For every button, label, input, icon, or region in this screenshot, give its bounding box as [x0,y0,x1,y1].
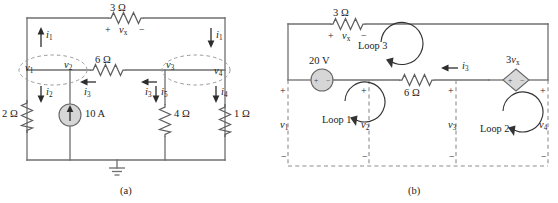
current-label-i3-right-sub: 3 [148,91,152,99]
label-resistor-4ohm-a: 4 Ω [174,109,190,120]
node-label-v1-a-name: v [25,62,30,73]
label-vx-b-sub: x [347,35,351,43]
label-loop-1: Loop 1 [322,115,351,125]
mesh-v4-sub: 4 [544,124,548,132]
arrow-b-i3-head [441,65,449,72]
node-label-v4-a: v4 [214,66,222,78]
node-label-v1-a: v1 [25,63,33,75]
mesh-v1-plus: + [280,86,286,96]
mesh-v3-sub: 3 [453,124,457,132]
label-resistor-3ohm-a: 3 Ω [110,3,126,14]
mesh-v3-minus: − [449,152,455,162]
mesh-v4-plus: + [540,86,546,96]
mesh-v3-name: v [448,119,453,130]
label-vx-plus-a: + [105,25,111,35]
resistor-6ohm-mid-b [399,75,435,86]
label-loop-2: Loop 2 [480,124,509,134]
resistor-3ohm-top-b [330,19,366,30]
mesh-v2-label: v2 [361,120,369,132]
mesh-v4-label: v4 [539,120,547,132]
mesh-v2-plus: + [361,86,367,96]
arrow-i3-right-head [141,79,149,86]
label-dependent-source-3vx: 3vx [506,55,520,67]
label-vx-b: vx [342,31,350,43]
current-label-i5-sub: 5 [164,91,168,99]
label-current-source-10a: 10 A [85,109,105,120]
current-label-i3-left-sub: 3 [87,91,91,99]
dependent-source-minus-sign: − [520,76,524,85]
label-vx-minus-a: − [139,25,145,35]
node-label-v2-a: v2 [64,60,72,72]
label-resistor-6ohm-a: 6 Ω [95,55,111,66]
resistor-3ohm-top-a [108,13,144,24]
current-label-i3-left: i3 [84,87,91,99]
current-label-b-i3: i3 [462,61,469,73]
arrow-i1-right-head [208,41,215,49]
voltage-source-minus-sign: − [326,76,330,85]
current-label-i4-sub: 4 [224,91,228,99]
label-vx-b-name: v [342,30,347,41]
node-label-v4-a-sub: 4 [219,70,223,78]
circuit-canvas [0,0,558,203]
arrow-i2-head [38,96,45,104]
node-label-v2-a-name: v [64,59,69,70]
figure-root: 3 Ω + vx − 6 Ω v1 v2 v3 v4 i1 i1 i2 i3 i… [0,0,558,203]
current-label-i1-left: i1 [46,30,53,42]
node-label-v3-a: v3 [166,60,174,72]
current-label-i2-sub: 2 [49,91,53,99]
caption-panel-a: (a) [120,186,132,197]
label-vx-a-name: v [119,24,124,35]
resistor-6ohm-mid-a [90,65,126,76]
mesh-v3-label: v3 [448,120,456,132]
mesh-v1-minus: − [281,152,287,162]
label-vx-plus-b: + [328,31,334,41]
label-vx-a: vx [119,25,127,37]
label-resistor-2ohm-a: 2 Ω [2,109,18,120]
mesh-v1-sub: 1 [285,124,289,132]
current-label-i1-left-sub: 1 [49,34,53,42]
label-resistor-1ohm-a: 1 Ω [234,109,250,120]
node-label-v4-a-name: v [214,65,219,76]
current-label-i1-right-sub: 1 [219,34,223,42]
current-label-i4: i4 [221,87,228,99]
dependent-source-3vx-symbol [503,69,529,91]
mesh-v4-name: v [539,119,544,130]
arrow-i3-left-head [80,79,88,86]
label-resistor-6ohm-b: 6 Ω [404,88,420,99]
resistor-4ohm-a [160,104,171,137]
node-label-v3-a-name: v [166,59,171,70]
node-label-v2-a-sub: 2 [69,64,73,72]
label-vx-a-sub: x [124,29,128,37]
label-voltage-source-20v: 20 V [309,56,330,67]
current-label-i5: i5 [161,87,168,99]
label-resistor-3ohm-b: 3 Ω [333,8,349,19]
node-label-v1-a-sub: 1 [30,67,34,75]
loop3-arrow-head [386,58,394,69]
mesh-v2-minus: − [362,152,368,162]
mesh-v2-name: v [361,119,366,130]
arrow-i1-left-head [38,27,45,35]
current-label-i3-right: i3 [145,87,152,99]
current-label-b-i3-sub: 3 [465,65,469,73]
dependent-source-plus-sign: + [508,76,512,85]
arrow-i5-head [153,96,160,104]
mesh-v4-minus: − [541,152,547,162]
caption-panel-b: (b) [408,186,420,197]
arrow-i4-head [213,96,220,104]
current-label-i2: i2 [46,87,53,99]
voltage-source-plus-sign: + [314,76,318,85]
label-loop-3: Loop 3 [358,41,387,51]
node-label-v3-a-sub: 3 [171,64,175,72]
mesh-v2-sub: 2 [366,124,370,132]
mesh-v1-label: v1 [280,120,288,132]
mesh-v3-plus: + [448,86,454,96]
current-label-i1-right: i1 [216,30,223,42]
label-dependent-source-sub: x [516,59,520,67]
mesh-v1-name: v [280,119,285,130]
